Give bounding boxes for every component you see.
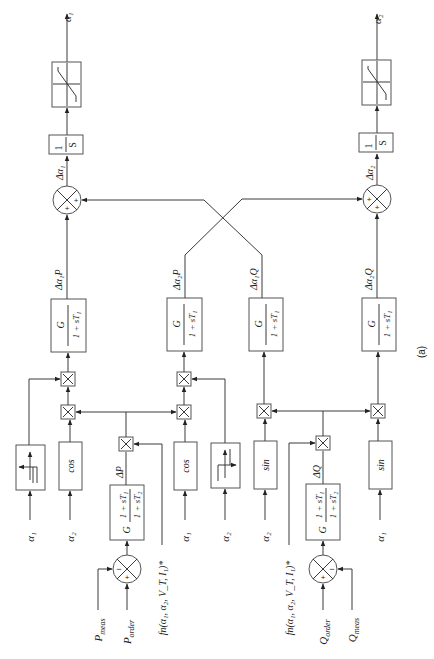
p-order-label: Porder — [121, 619, 136, 645]
lag-numerator: G — [366, 320, 377, 327]
q-meas-label: Qmeas — [346, 618, 361, 642]
cos-block-1: cos — [59, 442, 82, 490]
delta-alpha2p-label: Δα₂P — [171, 269, 182, 291]
summer-sign: + — [125, 573, 130, 582]
limiter-block-alpha2 — [362, 60, 391, 105]
lag-block-delta-alpha1p: G 1 + sT₁ — [51, 299, 86, 352]
q-order-label: Qorder — [317, 618, 332, 644]
fn-label-p: fn(α₁, α₂, V_T, I₁)* — [157, 561, 169, 636]
figure-caption: (a) — [416, 346, 427, 358]
input-label-cos2: α₁ — [179, 532, 191, 542]
sign1-output-link — [29, 379, 60, 445]
lead-lag-denominator: 1 + sT₂ — [132, 492, 142, 519]
lag-block-delta-alpha2p: G 1 + sT₁ — [167, 298, 202, 351]
alpha2-output-label: α₂ — [371, 14, 383, 24]
integrator-denominator: S — [377, 140, 388, 146]
delta-q-bus — [272, 411, 370, 436]
lead-lag-gain: G — [317, 526, 328, 533]
p-meas-label: Pmeas — [92, 618, 107, 642]
sign2-output-link — [192, 379, 225, 443]
summer-sign: + — [367, 195, 372, 204]
svg-text:Porder: Porder — [121, 619, 136, 645]
input-label-cos1: α₂ — [64, 532, 76, 542]
multiplier-top-center — [177, 372, 191, 386]
control-block-diagram: α₁ 1 S Δα₁ + + α₂ — [0, 0, 434, 659]
summer-q: + − — [309, 555, 337, 583]
svg-text:Qmeas: Qmeas — [346, 618, 361, 642]
lead-lag-numerator: 1 + sT₁ — [118, 492, 128, 519]
delta-alpha1-label: Δα₁ — [54, 165, 65, 181]
lag-blocks: G 1 + sT₁ Δα₁P G 1 + sT₁ Δα₂P G 1 + sT₁ … — [51, 199, 396, 352]
output-chain-alpha2: α₂ 1 S Δα₂ + + — [359, 14, 393, 213]
lead-lag-gain: G — [121, 526, 132, 533]
multiplier-mid-left — [61, 405, 75, 419]
alpha1-output-label: α₁ — [61, 12, 73, 22]
lag-numerator: G — [171, 320, 182, 327]
q-meas-link — [338, 569, 352, 610]
summer-p: − + — [113, 555, 141, 583]
output-chain-alpha1: α₁ 1 S Δα₁ + + — [49, 12, 83, 214]
input-label-sin2: α₁ — [374, 532, 386, 542]
summer-sign: + — [321, 573, 326, 582]
integrator-numerator: 1 — [363, 144, 374, 149]
lead-lag-block-q: G 1 + sT₁ 1 + sT₂ — [306, 484, 340, 540]
summer-sign: + — [74, 196, 79, 205]
multiplier-top-left — [61, 372, 75, 386]
lag-denominator: 1 + sT₁ — [187, 311, 197, 338]
multiplier-sin-left — [257, 404, 271, 418]
limiter-block-alpha1 — [52, 62, 81, 107]
sin-block-2: sin — [369, 441, 392, 489]
input-label-sign2: α₂ — [219, 532, 231, 542]
lag-denominator: 1 + sT₁ — [71, 312, 81, 339]
input-label-sign1: α₁ — [24, 532, 36, 542]
summer-sign: − — [329, 564, 334, 574]
lag-denominator: 1 + sT₁ — [269, 311, 279, 338]
lag-block-delta-alpha1q: G 1 + sT₁ — [249, 298, 283, 351]
sin-block-1: sin — [254, 441, 277, 489]
summer-sign: − — [116, 564, 121, 574]
delta-alpha1p-label: Δα₁P — [53, 269, 64, 291]
svg-text:Pmeas: Pmeas — [92, 618, 107, 642]
svg-text:Qorder: Qorder — [317, 618, 332, 644]
lag-numerator: G — [253, 320, 264, 327]
lead-lag-denominator: 1 + sT₂ — [328, 492, 338, 519]
trig-label: sin — [260, 459, 271, 471]
integrator-block-alpha1: 1 S — [49, 135, 83, 154]
delta-alpha1q-label: Δα₁Q — [248, 267, 259, 291]
delta-alpha2-label: Δα₂ — [364, 165, 375, 181]
trig-label: cos — [65, 459, 76, 472]
cos-block-2: cos — [174, 442, 197, 490]
integrator-denominator: S — [67, 142, 78, 148]
summer-alpha1: + + — [53, 186, 81, 214]
integrator-numerator: 1 — [53, 146, 64, 151]
integrator-block-alpha2: 1 S — [359, 133, 393, 152]
multiplier-delta-p — [119, 437, 133, 451]
summer-sign: + — [375, 203, 380, 212]
multiplier-mid-center — [177, 405, 191, 419]
input-label-sin1: α₂ — [259, 532, 271, 542]
sign-block-alpha1 — [16, 445, 45, 490]
delta-p-bus — [76, 412, 176, 437]
sign-block-alpha2 — [211, 443, 240, 488]
lag-denominator: 1 + sT₁ — [382, 311, 392, 338]
lead-lag-numerator: 1 + sT₁ — [314, 492, 324, 519]
p-meas-link — [98, 569, 112, 610]
delta-p-label: ΔP — [114, 466, 125, 479]
multiplier-delta-q — [316, 436, 330, 450]
lag-numerator: G — [55, 321, 66, 328]
fn-label-q: fn(α₁, α₂, V_T, I₁)* — [284, 561, 296, 636]
summer-sign: + — [65, 204, 70, 213]
delta-alpha2p-link — [185, 199, 362, 298]
lag-block-delta-alpha2q: G 1 + sT₁ — [362, 298, 396, 351]
trig-label: sin — [375, 459, 386, 471]
multipliers — [61, 352, 385, 451]
trig-label: cos — [180, 459, 191, 472]
lead-lag-block-p: G 1 + sT₁ 1 + sT₂ — [110, 485, 144, 540]
multiplier-sin-right — [371, 404, 385, 418]
delta-q-label: ΔQ — [311, 464, 322, 479]
delta-alpha2q-label: Δα₂Q — [363, 267, 374, 291]
summer-alpha2: + + — [363, 185, 391, 213]
